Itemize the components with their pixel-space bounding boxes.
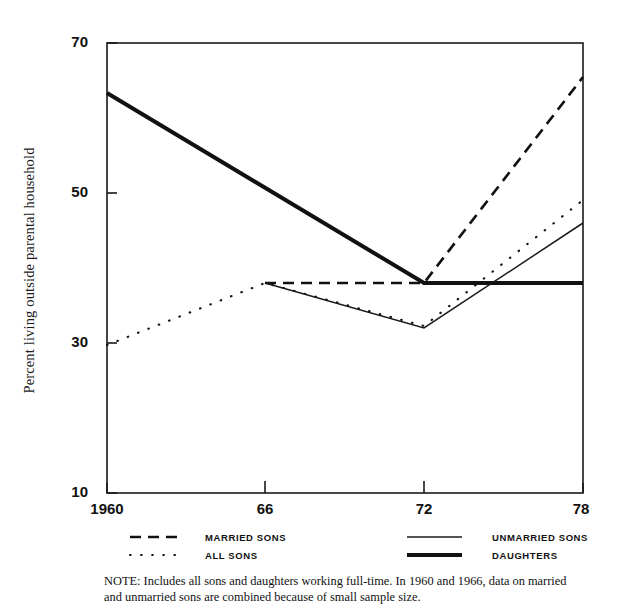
x-tick-label-66: 66	[235, 500, 295, 517]
legend-label-married-sons: MARRIED SONS	[205, 532, 286, 543]
x-axis-ticks	[107, 481, 583, 493]
legend-label-unmarried-sons: UNMARRIED SONS	[492, 532, 588, 543]
series-married-sons	[265, 77, 583, 283]
plot-frame	[107, 43, 583, 493]
married-sons-line	[265, 77, 583, 283]
line-chart-canvas	[0, 0, 626, 611]
all-sons-line	[107, 200, 583, 345]
y-axis-ticks	[107, 43, 117, 493]
y-tick-label-30: 30	[48, 333, 88, 350]
series-unmarried-sons	[265, 223, 583, 328]
y-tick-label-70: 70	[48, 33, 88, 50]
x-tick-label-1960: 1960	[77, 500, 137, 517]
series-all-sons	[107, 200, 583, 345]
plot-border	[107, 43, 583, 493]
series-daughters	[107, 93, 583, 283]
legend-label-daughters: DAUGHTERS	[492, 550, 558, 561]
unmarried-sons-line	[265, 223, 583, 328]
y-tick-label-10: 10	[48, 483, 88, 500]
note-text: Includes all sons and daughters working …	[104, 574, 567, 604]
chart-note: NOTE: Includes all sons and daughters wo…	[104, 574, 574, 605]
daughters-line	[107, 93, 583, 283]
y-axis-label-wrap: Percent living outside parental househol…	[14, 90, 44, 450]
chart-figure: Percent living outside parental househol…	[0, 0, 626, 611]
note-label: NOTE:	[104, 574, 140, 588]
x-tick-label-72: 72	[394, 500, 454, 517]
x-tick-label-78: 78	[556, 500, 606, 517]
y-axis-label: Percent living outside parental househol…	[21, 147, 38, 393]
legend-label-all-sons: ALL SONS	[205, 550, 258, 561]
y-tick-label-50: 50	[48, 183, 88, 200]
legend-swatches	[130, 537, 462, 555]
